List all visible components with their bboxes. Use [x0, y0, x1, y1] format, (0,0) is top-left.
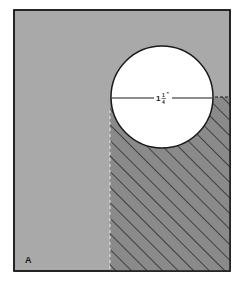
diagram-figure: 1 1 4 " A [0, 0, 242, 281]
panel-label: A [25, 255, 32, 265]
dimension-denominator: 4 [162, 99, 165, 105]
dimension-whole: 1 [156, 94, 161, 103]
dimension-numerator: 1 [162, 92, 165, 98]
